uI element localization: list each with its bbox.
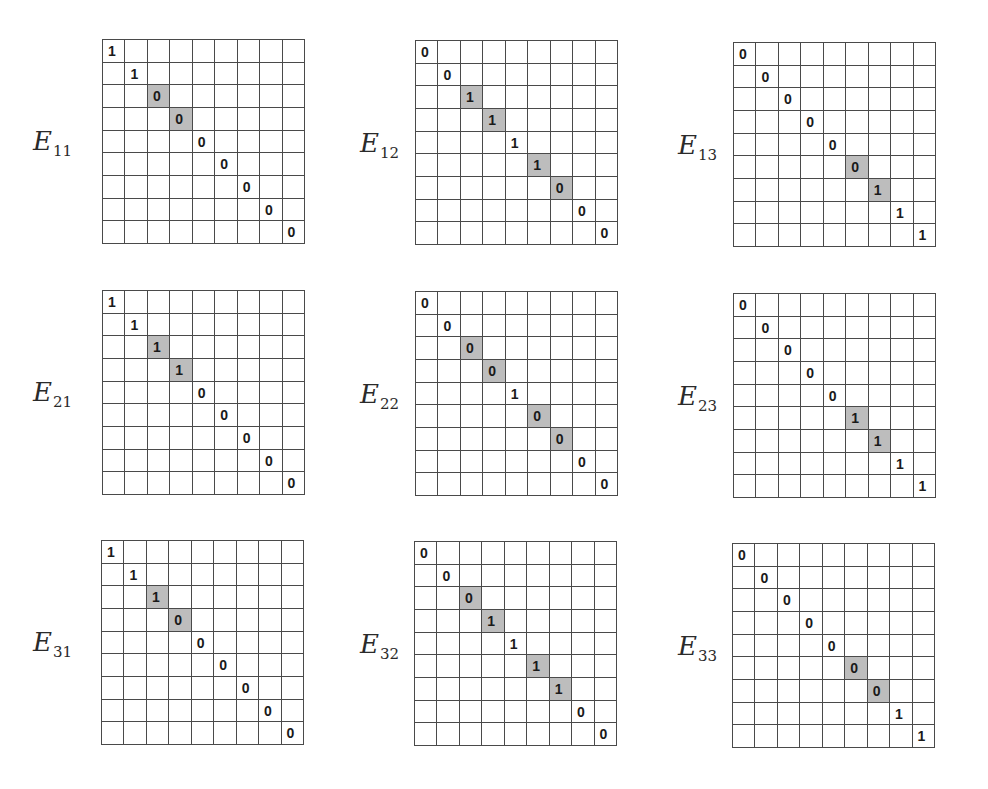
empty-cell bbox=[124, 541, 146, 564]
empty-cell bbox=[779, 111, 801, 134]
empty-cell bbox=[483, 337, 505, 360]
diagonal-cell: 1 bbox=[869, 430, 891, 453]
empty-cell bbox=[102, 654, 124, 677]
diagonal-cell: 0 bbox=[214, 654, 236, 677]
diagonal-value: 0 bbox=[175, 111, 183, 127]
empty-cell bbox=[169, 700, 191, 723]
empty-cell bbox=[913, 544, 935, 567]
empty-cell bbox=[505, 610, 527, 633]
empty-cell bbox=[891, 43, 913, 66]
empty-cell bbox=[482, 723, 504, 746]
empty-cell bbox=[214, 586, 236, 609]
empty-cell bbox=[756, 202, 778, 225]
empty-cell bbox=[823, 680, 845, 703]
empty-cell bbox=[148, 199, 170, 222]
empty-cell bbox=[528, 451, 550, 474]
diagonal-value: 0 bbox=[600, 726, 608, 742]
empty-cell bbox=[801, 202, 823, 225]
empty-cell bbox=[193, 404, 215, 427]
diagonal-value: 0 bbox=[265, 453, 273, 469]
empty-cell bbox=[461, 473, 483, 496]
empty-cell bbox=[505, 701, 527, 724]
empty-cell bbox=[846, 134, 868, 157]
empty-cell bbox=[733, 635, 755, 658]
diagonal-cell: 0 bbox=[193, 382, 215, 405]
diagonal-cell: 0 bbox=[551, 177, 573, 200]
empty-cell bbox=[506, 177, 528, 200]
empty-cell bbox=[869, 475, 891, 498]
matrix-label-subscript: 22 bbox=[380, 395, 399, 413]
empty-cell bbox=[170, 221, 192, 244]
diagonal-value: 0 bbox=[601, 225, 609, 241]
empty-cell bbox=[890, 612, 912, 635]
empty-cell bbox=[148, 359, 170, 382]
diagonal-value: 0 bbox=[488, 363, 496, 379]
diagonal-value: 1 bbox=[511, 135, 519, 151]
diagonal-cell: 0 bbox=[260, 450, 282, 473]
empty-cell bbox=[282, 632, 304, 655]
empty-cell bbox=[573, 109, 595, 132]
diagonal-cell: 0 bbox=[779, 339, 801, 362]
empty-cell bbox=[801, 385, 823, 408]
empty-cell bbox=[416, 177, 438, 200]
empty-cell bbox=[891, 156, 913, 179]
empty-cell bbox=[755, 680, 777, 703]
empty-cell bbox=[148, 450, 170, 473]
empty-cell bbox=[169, 677, 191, 700]
empty-cell bbox=[214, 700, 236, 723]
empty-cell bbox=[596, 64, 618, 87]
empty-cell bbox=[103, 427, 125, 450]
diagonal-value: 1 bbox=[851, 410, 859, 426]
empty-cell bbox=[483, 405, 505, 428]
empty-cell bbox=[551, 292, 573, 315]
empty-cell bbox=[506, 292, 528, 315]
empty-cell bbox=[214, 609, 236, 632]
empty-cell bbox=[506, 86, 528, 109]
empty-cell bbox=[527, 542, 549, 565]
diagonal-cell: 0 bbox=[734, 43, 756, 66]
empty-cell bbox=[416, 132, 438, 155]
empty-cell bbox=[415, 565, 437, 588]
empty-cell bbox=[125, 336, 147, 359]
empty-cell bbox=[192, 541, 214, 564]
empty-cell bbox=[416, 315, 438, 338]
empty-cell bbox=[238, 131, 260, 154]
empty-cell bbox=[823, 725, 845, 748]
empty-cell bbox=[846, 43, 868, 66]
empty-cell bbox=[801, 339, 823, 362]
empty-cell bbox=[282, 609, 304, 632]
diagonal-cell: 0 bbox=[237, 677, 259, 700]
empty-cell bbox=[596, 154, 618, 177]
empty-cell bbox=[170, 131, 192, 154]
empty-cell bbox=[550, 610, 572, 633]
empty-cell bbox=[415, 587, 437, 610]
diagonal-cell: 0 bbox=[596, 473, 618, 496]
matrix-label-subscript: 33 bbox=[698, 647, 717, 665]
empty-cell bbox=[238, 108, 260, 131]
empty-cell bbox=[260, 404, 282, 427]
empty-cell bbox=[572, 587, 594, 610]
empty-cell bbox=[438, 177, 460, 200]
empty-cell bbox=[528, 41, 550, 64]
empty-cell bbox=[596, 405, 618, 428]
diagonal-cell: 0 bbox=[169, 609, 191, 632]
empty-cell bbox=[528, 132, 550, 155]
empty-cell bbox=[460, 701, 482, 724]
empty-cell bbox=[914, 430, 936, 453]
empty-cell bbox=[260, 336, 282, 359]
empty-cell bbox=[845, 589, 867, 612]
empty-cell bbox=[573, 383, 595, 406]
empty-cell bbox=[734, 156, 756, 179]
empty-cell bbox=[506, 428, 528, 451]
empty-cell bbox=[845, 635, 867, 658]
empty-cell bbox=[506, 200, 528, 223]
empty-cell bbox=[438, 154, 460, 177]
empty-cell bbox=[506, 315, 528, 338]
empty-cell bbox=[259, 586, 281, 609]
empty-cell bbox=[505, 542, 527, 565]
empty-cell bbox=[801, 134, 823, 157]
empty-cell bbox=[148, 108, 170, 131]
empty-cell bbox=[148, 153, 170, 176]
matrix-label-base: E bbox=[360, 379, 379, 409]
matrix-label-subscript: 21 bbox=[53, 393, 72, 411]
